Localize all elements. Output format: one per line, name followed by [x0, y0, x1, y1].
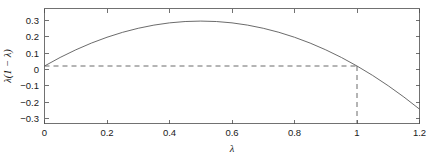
y-axis-ticks-left — [45, 21, 49, 119]
y-tick-label-2: 0.1 — [26, 48, 39, 59]
x-axis-ticks-bottom — [45, 120, 420, 124]
y-axis-title: λ(1 − λ) — [2, 49, 14, 84]
y-tick-label-0: 0.3 — [26, 15, 39, 26]
figure-container: 0 0.2 0.4 0.6 0.8 1 1.2 0.3 0.2 0.1 0 −0… — [0, 0, 433, 159]
x-tick-label-0: 0 — [42, 127, 47, 138]
y-tick-label-1: 0.2 — [26, 31, 39, 42]
plot-canvas: 0 0.2 0.4 0.6 0.8 1 1.2 0.3 0.2 0.1 0 −0… — [0, 0, 433, 159]
data-curve-lambda-one-minus-lambda — [45, 21, 420, 109]
x-tick-label-6: 1.2 — [413, 127, 426, 138]
y-tick-label-4: −0.1 — [20, 80, 39, 91]
x-tick-label-5: 1 — [354, 127, 359, 138]
x-tick-label-2: 0.4 — [163, 127, 176, 138]
x-tick-label-4: 0.8 — [288, 127, 301, 138]
x-axis-title: λ — [229, 143, 235, 154]
x-tick-label-3: 0.6 — [225, 127, 238, 138]
y-tick-label-6: −0.3 — [20, 113, 39, 124]
x-axis-ticks-top — [45, 9, 420, 13]
y-tick-label-3: 0 — [34, 64, 39, 75]
x-tick-label-1: 0.2 — [100, 127, 113, 138]
y-axis-ticks-right — [416, 21, 420, 119]
y-tick-label-5: −0.2 — [20, 97, 39, 108]
